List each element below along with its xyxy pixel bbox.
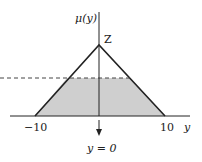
x-axis-label: y <box>183 121 191 134</box>
tick-label-10: 10 <box>160 121 174 134</box>
membership-diagram: μ(y) Z −10 10 y y = 0 <box>0 0 202 162</box>
y-axis-label: μ(y) <box>75 12 97 25</box>
down-arrow-icon <box>96 129 102 136</box>
tick-label-neg10: −10 <box>24 121 47 134</box>
arrow-label: y = 0 <box>86 142 116 155</box>
apex-label: Z <box>104 33 112 46</box>
shaded-region <box>35 78 165 116</box>
